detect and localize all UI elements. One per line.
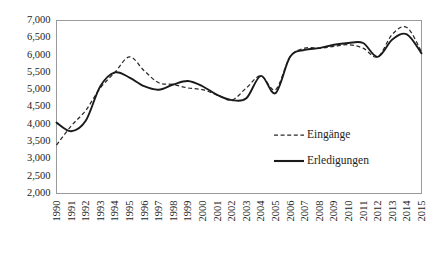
x-tick-label: 1996 xyxy=(139,201,150,222)
x-tick-label: 2009 xyxy=(328,201,339,222)
x-tick-label: 1995 xyxy=(124,201,135,222)
x-tick-label: 2003 xyxy=(241,201,252,222)
x-tick-label: 1993 xyxy=(95,201,106,222)
x-tick-label: 2002 xyxy=(226,201,237,222)
y-axis-tick-labels: 2,0002,5003,0003,5004,0004,5005,0005,500… xyxy=(27,14,51,198)
x-tick-label: 2008 xyxy=(314,201,325,222)
x-tick-label: 1994 xyxy=(109,200,120,222)
x-axis-tick-labels: 1990199119921993199419951996199719981999… xyxy=(51,200,427,222)
y-tick-label: 2,000 xyxy=(27,187,51,198)
series-line-eingaenge xyxy=(57,27,422,145)
x-tick-label: 2007 xyxy=(299,201,310,222)
y-tick-label: 3,500 xyxy=(27,135,51,146)
x-tick-label: 2014 xyxy=(401,200,412,222)
x-tick-label: 2011 xyxy=(358,201,369,222)
x-tick-label: 1999 xyxy=(182,201,193,222)
y-tick-label: 3,000 xyxy=(27,152,51,163)
series-paths-group xyxy=(57,27,422,145)
legend-label-erledigungen: Erledigungen xyxy=(307,154,369,167)
y-tick-label: 5,000 xyxy=(27,83,51,94)
x-tick-label: 2001 xyxy=(212,201,223,222)
chart-legend: EingängeErledigungen xyxy=(274,128,369,167)
line-chart-figure: 2,0002,5003,0003,5004,0004,5005,0005,500… xyxy=(0,0,444,253)
x-tick-label: 1997 xyxy=(153,201,164,222)
y-tick-label: 6,000 xyxy=(27,49,51,60)
y-tick-label: 5,500 xyxy=(27,66,51,77)
x-tick-label: 2010 xyxy=(343,201,354,222)
x-tick-label: 1992 xyxy=(80,201,91,222)
y-tick-label: 2,500 xyxy=(27,170,51,181)
x-tick-label: 1991 xyxy=(66,201,77,222)
x-tick-label: 2000 xyxy=(197,201,208,222)
y-tick-label: 7,000 xyxy=(27,14,51,25)
x-tick-label: 1998 xyxy=(168,201,179,222)
x-tick-label: 2004 xyxy=(255,200,266,222)
y-tick-label: 6,500 xyxy=(27,31,51,42)
x-tick-label: 2013 xyxy=(387,201,398,222)
chart-canvas: 2,0002,5003,0003,5004,0004,5005,0005,500… xyxy=(0,0,444,253)
legend-label-eingaenge: Eingänge xyxy=(307,128,350,141)
x-tick-label: 2005 xyxy=(270,201,281,222)
y-tick-label: 4,000 xyxy=(27,118,51,129)
y-tick-label: 4,500 xyxy=(27,100,51,111)
x-tick-label: 1990 xyxy=(51,201,62,222)
series-line-erledigungen xyxy=(57,34,422,132)
x-tick-label: 2006 xyxy=(285,201,296,222)
x-tick-label: 2015 xyxy=(416,201,427,222)
x-tick-label: 2012 xyxy=(372,201,383,222)
